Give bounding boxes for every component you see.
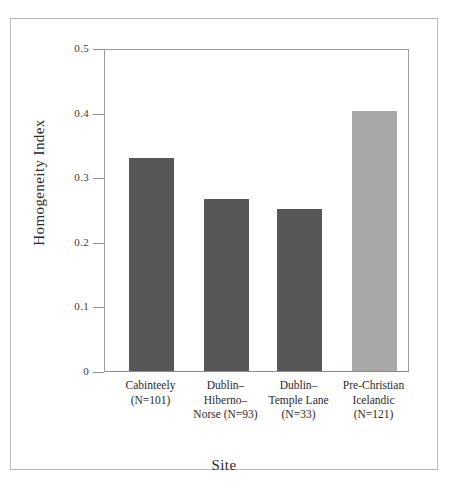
y-axis-tick-label: 0 — [51, 365, 89, 377]
y-axis-tick-label: 0.4 — [51, 107, 89, 119]
bar-series — [105, 50, 408, 371]
y-axis-title: Homogeneity Index — [31, 93, 48, 273]
x-axis-tick-label: Pre-Christian Icelandic (N=121) — [322, 378, 426, 422]
y-axis-tick-label: 0.1 — [51, 300, 89, 312]
y-axis-tick — [93, 372, 104, 373]
y-axis-tick — [93, 178, 104, 179]
plot-area — [104, 49, 409, 372]
y-axis-tick — [93, 243, 104, 244]
bar — [204, 199, 249, 371]
x-axis-title: Site — [11, 457, 437, 474]
bar — [352, 111, 397, 371]
y-axis-tick — [93, 114, 104, 115]
y-axis-tick — [93, 307, 104, 308]
y-axis-tick — [93, 49, 104, 50]
y-axis-tick-label: 0.5 — [51, 42, 89, 54]
bar — [129, 158, 174, 371]
bar — [277, 209, 322, 371]
y-axis-tick-label: 0.2 — [51, 236, 89, 248]
y-axis-tick-label: 0.3 — [51, 171, 89, 183]
figure-frame: Homogeneity Index 00.10.20.30.40.5 Cabin… — [10, 18, 438, 470]
